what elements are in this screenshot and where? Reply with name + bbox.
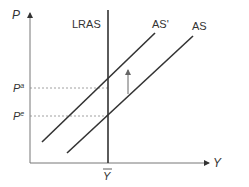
lras-label: LRAS (72, 18, 101, 30)
as-shifted-label: AS' (152, 18, 169, 30)
as-original-label: AS (192, 20, 207, 32)
y-axis-label: P (12, 8, 20, 22)
output-level-label: Y (103, 170, 111, 182)
x-axis-label: Y (213, 156, 222, 170)
as-original-curve (67, 36, 193, 153)
upper-price-label: Pa (13, 82, 24, 94)
as-shift-diagram: P Y Pa Pe LRAS AS' AS Y (0, 0, 249, 187)
lower-price-label: Pe (13, 110, 24, 122)
